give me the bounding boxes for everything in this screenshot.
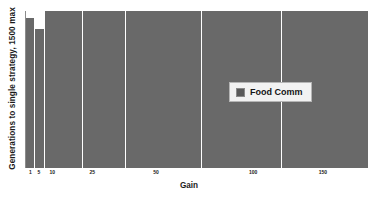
x-tick-150: 150 xyxy=(319,169,327,176)
bar-25 xyxy=(83,11,125,168)
plot-area xyxy=(26,11,368,168)
x-tick-25: 25 xyxy=(90,169,96,176)
chart-legend: Food Comm xyxy=(229,82,312,102)
bar-5 xyxy=(35,29,44,168)
legend-label-food-comm: Food Comm xyxy=(250,87,303,97)
x-tick-50: 50 xyxy=(153,169,159,176)
x-tick-1: 1 xyxy=(29,169,32,176)
legend-swatch-food-comm xyxy=(236,88,245,97)
bar-series-food-comm xyxy=(26,11,368,168)
x-tick-10: 10 xyxy=(50,169,56,176)
x-tick-100: 100 xyxy=(249,169,257,176)
x-tick-5: 5 xyxy=(38,169,41,176)
y-axis-title: Generations to single strategy, 1500 max xyxy=(8,1,17,177)
bar-50 xyxy=(126,11,201,168)
bar-chart: Generations to single strategy, 1500 max… xyxy=(0,0,378,200)
x-axis-title: Gain xyxy=(0,181,378,190)
bar-10 xyxy=(45,11,81,168)
bar-1 xyxy=(26,18,34,168)
